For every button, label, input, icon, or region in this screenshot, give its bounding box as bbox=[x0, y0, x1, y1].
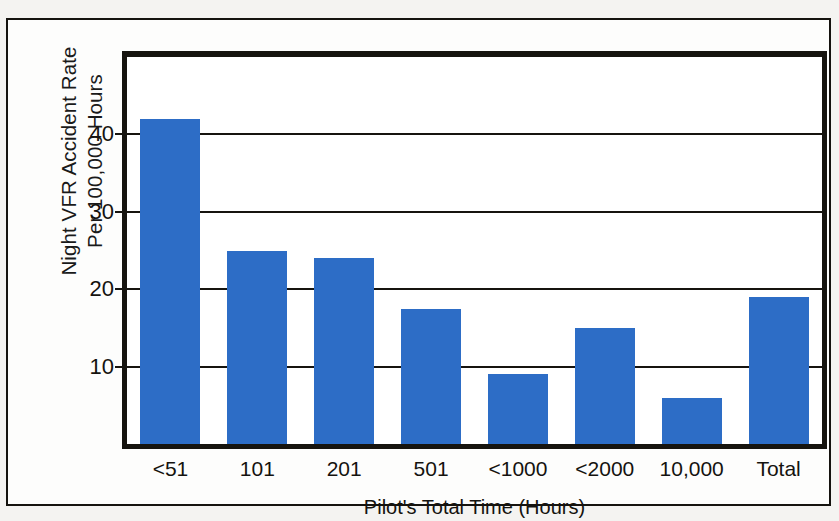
bar-slot: <1000 bbox=[475, 57, 562, 444]
y-axis-title: Night VFR Accident Rate Per 100,000 Hour… bbox=[52, 0, 112, 356]
bar-slot: <51 bbox=[127, 57, 214, 444]
bar-slot: 101 bbox=[214, 57, 301, 444]
y-axis-title-line-1: Night VFR Accident Rate bbox=[56, 46, 82, 275]
tick-mark-10 bbox=[115, 366, 127, 368]
y-tick-label-40: 40 bbox=[90, 121, 114, 147]
x-tick-label: <1000 bbox=[488, 457, 547, 481]
x-tick-label: 101 bbox=[240, 457, 275, 481]
x-tick-label: 10,000 bbox=[660, 457, 724, 481]
bar-slot: 501 bbox=[388, 57, 475, 444]
y-tick-label-10: 10 bbox=[90, 354, 114, 380]
bar[interactable] bbox=[140, 119, 200, 444]
figure-outer-frame: Night VFR Accident Rate Per 100,000 Hour… bbox=[6, 18, 831, 506]
bar-slot: <2000 bbox=[561, 57, 648, 444]
x-tick-label: Total bbox=[756, 457, 800, 481]
bar[interactable] bbox=[575, 328, 635, 444]
y-tick-label-30: 30 bbox=[90, 199, 114, 225]
bar[interactable] bbox=[749, 297, 809, 444]
y-tick-label-20: 20 bbox=[90, 276, 114, 302]
bar[interactable] bbox=[662, 398, 722, 444]
bar-slot: 201 bbox=[301, 57, 388, 444]
x-tick-label: 201 bbox=[327, 457, 362, 481]
bar-slot: Total bbox=[735, 57, 822, 444]
x-axis-title: Pilot's Total Time (Hours) bbox=[122, 496, 827, 519]
bar[interactable] bbox=[401, 309, 461, 444]
bar[interactable] bbox=[488, 374, 548, 444]
figure-container: Night VFR Accident Rate Per 100,000 Hour… bbox=[0, 0, 839, 521]
x-tick-label: <2000 bbox=[575, 457, 634, 481]
tick-mark-30 bbox=[115, 211, 127, 213]
bar[interactable] bbox=[314, 258, 374, 444]
x-tick-label: 501 bbox=[414, 457, 449, 481]
tick-mark-20 bbox=[115, 288, 127, 290]
bar-slot: 10,000 bbox=[648, 57, 735, 444]
bar[interactable] bbox=[227, 251, 287, 445]
bars-group: <51101201501<1000<200010,000Total bbox=[127, 57, 822, 444]
plot-area-frame: 10203040 <51101201501<1000<200010,000Tot… bbox=[122, 51, 827, 449]
x-tick-label: <51 bbox=[153, 457, 189, 481]
plot-area: 10203040 <51101201501<1000<200010,000Tot… bbox=[127, 57, 822, 444]
tick-mark-40 bbox=[115, 133, 127, 135]
